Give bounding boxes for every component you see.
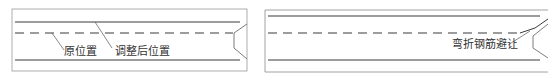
left-end-notch [234,24,247,59]
leader-line-adjusted [95,22,112,48]
label-bent-rebar-avoidance: 弯折钢筋避让 [452,39,518,50]
leader-line-original [52,33,64,50]
left-panel-border [12,9,247,71]
label-adjusted-position: 调整后位置 [115,46,170,57]
label-original-position: 原位置 [64,46,97,57]
right-end-notch [533,24,548,58]
left-panel [12,9,247,71]
bent-rebar [520,19,548,33]
